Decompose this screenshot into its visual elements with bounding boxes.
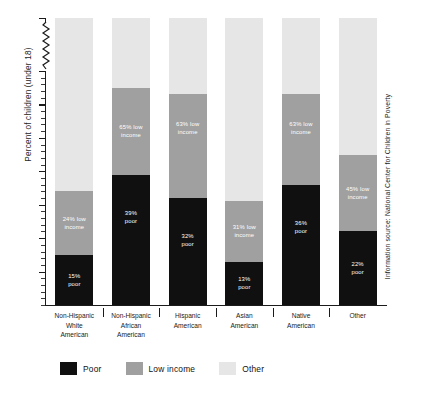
bar-label-low-income: 31% lowincome (233, 223, 256, 239)
y-tick-minor (41, 258, 45, 259)
bar-segment-low-income[interactable]: 63% lowincome (282, 94, 320, 184)
y-tick-minor (41, 292, 45, 293)
bar-label-poor: 39%poor (125, 209, 137, 225)
bar-segment-other[interactable] (169, 18, 207, 94)
y-tick-minor (41, 285, 45, 286)
legend-item-other[interactable]: Other (219, 362, 264, 375)
legend-item-poor[interactable]: Poor (60, 362, 102, 375)
bar-segment-other[interactable] (112, 18, 150, 88)
y-tick-minor (41, 178, 45, 179)
legend-item-low[interactable]: Low income (126, 362, 196, 375)
bar-label-poor: 13%poor (238, 275, 250, 291)
x-axis-line (45, 305, 387, 306)
y-tick-minor (41, 158, 45, 159)
bar-1[interactable]: 24% lowincome15%poor (55, 18, 93, 305)
y-tick-minor (41, 84, 45, 85)
y-tick-minor (41, 225, 45, 226)
y-tick-minor (41, 298, 45, 299)
plot-area: 24% lowincome15%poor65% lowincome39%poor… (46, 18, 386, 305)
bar-label-low-income: 63% lowincome (176, 120, 199, 136)
x-axis-label-6: Other (325, 311, 391, 321)
legend-label-poor: Poor (83, 364, 102, 374)
bar-2[interactable]: 65% lowincome39%poor (112, 18, 150, 305)
legend-label-low: Low income (149, 364, 196, 374)
y-tick-minor (41, 265, 45, 266)
legend-label-other: Other (242, 364, 264, 374)
bar-segment-poor[interactable]: 32%poor (169, 198, 207, 305)
y-tick-mark (39, 104, 46, 105)
y-tick-mark (39, 171, 46, 172)
y-tick-minor (41, 124, 45, 125)
bar-4[interactable]: 31% lowincome13%poor (225, 18, 263, 305)
bar-label-poor: 32%poor (181, 232, 193, 248)
bar-segment-low-income[interactable]: 31% lowincome (225, 201, 263, 261)
y-tick-minor (41, 252, 45, 253)
y-tick-minor (41, 145, 45, 146)
bar-3[interactable]: 63% lowincome32%poor (169, 18, 207, 305)
y-tick-mark (39, 71, 46, 72)
y-tick-minor (41, 78, 45, 79)
bar-segment-low-income[interactable]: 24% lowincome (55, 191, 93, 255)
y-tick-minor (41, 191, 45, 192)
bar-segment-poor[interactable]: 22%poor (339, 231, 377, 305)
y-tick-minor (41, 185, 45, 186)
legend-swatch-other (219, 362, 236, 375)
y-tick-mark (39, 238, 46, 239)
y-tick-minor (41, 231, 45, 232)
bar-label-low-income: 24% lowincome (63, 215, 86, 231)
y-tick-mark (39, 18, 46, 19)
bar-segment-other[interactable] (282, 18, 320, 94)
bar-segment-low-income[interactable]: 63% lowincome (169, 94, 207, 198)
bar-6[interactable]: 45% lowincome22%poor (339, 18, 377, 305)
bar-segment-other[interactable] (339, 18, 377, 155)
y-tick-minor (41, 211, 45, 212)
y-tick-minor (41, 198, 45, 199)
bar-segment-low-income[interactable]: 45% lowincome (339, 155, 377, 232)
source-note: Information source: National Center for … (384, 62, 391, 312)
y-tick-minor (41, 218, 45, 219)
bar-segment-other[interactable] (55, 18, 93, 191)
bar-label-poor: 36%poor (295, 219, 307, 235)
bar-5[interactable]: 63% lowincome36%poor (282, 18, 320, 305)
y-tick-mark (39, 138, 46, 139)
y-tick-mark (39, 205, 46, 206)
bar-segment-poor[interactable]: 39%poor (112, 175, 150, 305)
bar-segment-poor[interactable]: 15%poor (55, 255, 93, 305)
bar-label-poor: 22%poor (351, 260, 363, 276)
y-tick-mark (39, 272, 46, 273)
y-tick-minor (41, 165, 45, 166)
bar-label-poor: 15%poor (68, 272, 80, 288)
y-tick-minor (41, 111, 45, 112)
y-tick-minor (41, 245, 45, 246)
y-tick-minor (41, 278, 45, 279)
y-tick-minor (41, 91, 45, 92)
bar-segment-poor[interactable]: 13%poor (225, 262, 263, 305)
bar-segment-poor[interactable]: 36%poor (282, 185, 320, 305)
bar-label-low-income: 65% lowincome (119, 123, 142, 139)
legend-swatch-low (126, 362, 143, 375)
y-tick-minor (41, 118, 45, 119)
y-tick-minor (41, 131, 45, 132)
bar-label-low-income: 45% lowincome (346, 185, 369, 201)
chart-legend: PoorLow incomeOther (60, 362, 288, 375)
y-axis-title: Percent of children (under 18) (24, 15, 33, 195)
poverty-stacked-bar-chart: Percent of children (under 18) 100%70%60… (0, 0, 428, 395)
y-tick-minor (41, 151, 45, 152)
bar-label-low-income: 63% lowincome (289, 120, 312, 136)
bar-segment-low-income[interactable]: 65% lowincome (112, 88, 150, 175)
y-tick-minor (41, 98, 45, 99)
legend-swatch-poor (60, 362, 77, 375)
bar-segment-other[interactable] (225, 18, 263, 201)
